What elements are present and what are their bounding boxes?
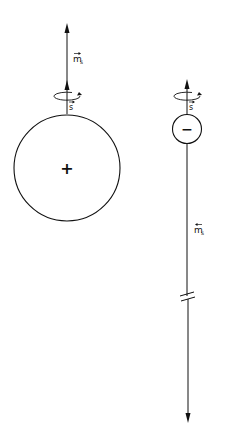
proton-group: + m s s (14, 23, 120, 221)
electron-group: − s m s (173, 79, 205, 423)
proton-moment-arrowhead (65, 23, 70, 33)
proton-rotation-icon (54, 92, 82, 100)
electron-spin-arrowhead (185, 79, 190, 89)
proton-charge-sign: + (60, 159, 73, 178)
proton-spin-arrowhead (65, 80, 70, 90)
electron-spin-label: s (189, 101, 195, 113)
axis-break-marks (180, 292, 195, 301)
spin-magnetic-moment-diagram: + m s s − s (0, 0, 242, 433)
electron-charge-sign: − (181, 121, 193, 137)
svg-text:s: s (80, 58, 83, 65)
proton-spin-label: s (69, 101, 75, 113)
proton-moment-label: m s (73, 52, 83, 65)
electron-rotation-icon (174, 92, 202, 100)
svg-text:s: s (201, 229, 204, 236)
electron-moment-label: m s (194, 223, 204, 236)
svg-text:s: s (189, 103, 193, 112)
svg-text:s: s (69, 103, 73, 112)
electron-moment-arrowhead (186, 413, 191, 423)
